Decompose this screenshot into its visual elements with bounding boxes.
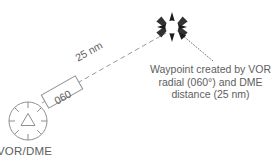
callout-leader-line [179,32,214,61]
vor-dme-station-icon [9,102,47,140]
diagram-canvas: 25 nm 060 VOR/DME Waypoint created by VO… [0,0,280,166]
vor-dme-station-label: VOR/DME [0,145,52,157]
waypoint-callout-text: Waypoint created by VOR radial (060°) an… [141,63,280,101]
callout-line-2: radial (060°) and DME [141,76,280,89]
callout-line-1: Waypoint created by VOR [141,63,280,76]
callout-line-3: distance (25 nm) [141,88,280,101]
